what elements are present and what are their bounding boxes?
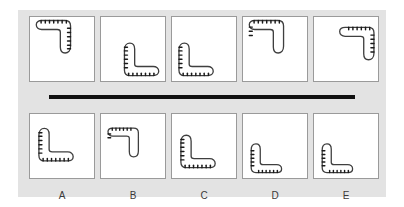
stimulus-panel-2[interactable] [100,16,166,82]
serrated-boomerang-icon [243,114,307,178]
option-panel-b[interactable] [100,113,166,179]
stimulus-panel-5[interactable] [313,16,379,82]
option-panel-e[interactable] [313,113,379,179]
serrated-boomerang-icon [172,17,236,81]
serrated-boomerang-icon [172,114,236,178]
option-label-e: E [313,190,379,201]
serrated-boomerang-icon [101,17,165,81]
option-label-a: A [29,190,95,201]
serrated-boomerang-icon [314,17,378,81]
serrated-boomerang-icon [243,17,307,81]
option-panel-c[interactable] [171,113,237,179]
stimulus-panel-3[interactable] [171,16,237,82]
row-divider [49,95,355,99]
serrated-boomerang-icon [30,17,94,81]
option-panel-d[interactable] [242,113,308,179]
option-label-b: B [100,190,166,201]
option-panel-a[interactable] [29,113,95,179]
serrated-boomerang-icon [314,114,378,178]
option-label-d: D [242,190,308,201]
serrated-boomerang-icon [101,114,165,178]
test-card: A B C D E [18,10,386,197]
stimulus-panel-4[interactable] [242,16,308,82]
figure-root: A B C D E [0,0,404,207]
serrated-boomerang-icon [30,114,94,178]
option-label-c: C [171,190,237,201]
stimulus-panel-1[interactable] [29,16,95,82]
